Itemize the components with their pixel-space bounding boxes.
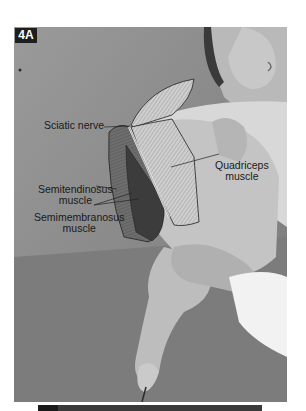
caption-bar-tab (38, 405, 58, 411)
sciatic-nerve-text: Sciatic nerve (44, 119, 104, 131)
semitendinosus-line2: muscle (38, 195, 113, 206)
quadriceps-line2: muscle (215, 171, 269, 182)
label-quadriceps: Quadriceps muscle (215, 160, 269, 182)
label-semimembranosus: Semimembranosus muscle (34, 212, 124, 234)
panel-label-badge: 4A (15, 28, 37, 43)
label-semitendinosus: Semitendinosus muscle (38, 184, 113, 206)
semimembranosus-line2: muscle (34, 223, 124, 234)
label-sciatic-nerve: Sciatic nerve (44, 120, 104, 131)
caption-bar (38, 405, 262, 411)
